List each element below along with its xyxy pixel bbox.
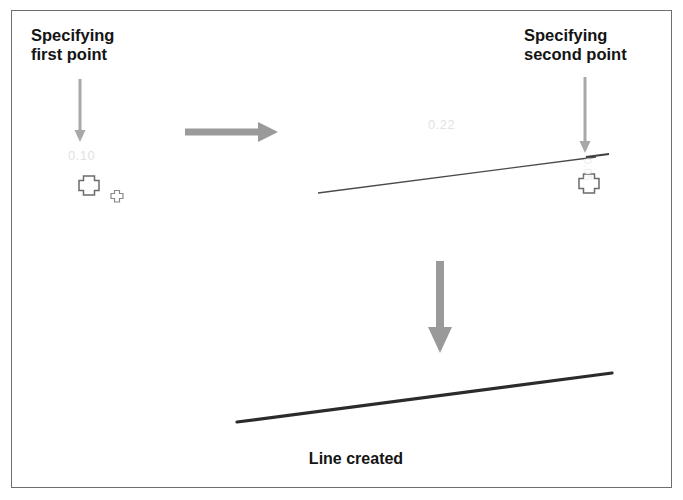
cad-line-command-diagram: Specifying first point Specifying second… [0, 0, 683, 500]
dynamic-input-tooltip-first-point: 0.10 [68, 148, 95, 163]
diagram-frame-border [11, 10, 672, 488]
caption-specifying-second-point: Specifying second point [524, 26, 627, 64]
dynamic-input-tooltip-second-point-vertical: 0.05 [582, 158, 594, 181]
dynamic-input-tooltip-second-point: 0.22 [428, 117, 455, 132]
caption-line-created: Line created [309, 449, 403, 468]
caption-specifying-first-point: Specifying first point [31, 26, 114, 64]
